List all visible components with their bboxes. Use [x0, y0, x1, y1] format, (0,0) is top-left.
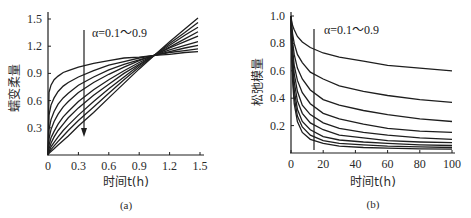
x-tick-label: 0.9: [132, 159, 147, 173]
x-axis-title: 时间t(h): [350, 175, 396, 189]
figure: 00.30.60.91.21.5 0.30.60.91.21.5 α=0.1～0…: [0, 0, 471, 218]
y-tick-label: 1.0: [270, 9, 285, 23]
panel-b-relaxation-modulus-chart: 020406080100 0.20.40.60.81.0 α=0.1～0.9 松…: [251, 9, 461, 211]
x-tick-label: 0.6: [101, 159, 116, 173]
x-tick-label: 0.3: [71, 159, 86, 173]
x-tick-label: 1.2: [162, 159, 177, 173]
x-tick-label: 0: [288, 157, 294, 171]
y-tick-label: 0.9: [27, 66, 42, 80]
panel-caption: (a): [120, 199, 133, 212]
x-tick-label: 100: [443, 157, 461, 171]
panel-a-creep-compliance-chart: 00.30.60.91.21.5 0.30.60.91.21.5 α=0.1～0…: [7, 12, 208, 212]
x-tick-label: 20: [317, 157, 329, 171]
panel-caption: (b): [367, 198, 380, 211]
y-axis-title: 蠕变柔量: [7, 64, 22, 112]
curve-alpha-0.8: [48, 23, 198, 155]
y-tick-label: 0.6: [27, 94, 42, 108]
y-tick-label: 1.5: [27, 12, 42, 26]
x-axis-title: 时间t(h): [103, 175, 149, 189]
y-tick-label: 0.6: [270, 64, 285, 78]
alpha-range-annotation: α=0.1～0.9: [324, 23, 379, 37]
y-tick-label: 0.2: [270, 119, 285, 133]
x-tick-label: 40: [349, 157, 361, 171]
arrow-down-icon: [81, 128, 87, 137]
x-tick-label: 80: [414, 157, 426, 171]
alpha-range-annotation: α=0.1～0.9: [92, 26, 147, 40]
y-tick-label: 0.8: [270, 36, 285, 50]
x-tick-label: 1.5: [193, 159, 208, 173]
y-axis-title: 松弛模量: [251, 58, 265, 106]
y-tick-label: 0.3: [27, 121, 42, 135]
x-tick-label: 60: [382, 157, 394, 171]
y-tick-label: 0.4: [270, 91, 285, 105]
y-tick-label: 1.2: [27, 39, 42, 53]
x-tick-label: 0: [45, 159, 51, 173]
